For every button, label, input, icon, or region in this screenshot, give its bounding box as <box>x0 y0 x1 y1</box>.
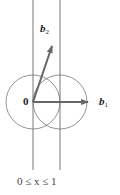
origin-text: 0 <box>23 95 29 107</box>
b2-subscript: 2 <box>46 28 50 36</box>
vector-b2-arrow <box>33 46 52 102</box>
strip-range-label: 0 ≤ x ≤ 1 <box>17 176 57 187</box>
b2-label: b2 <box>40 23 49 36</box>
b1-subscript: 1 <box>105 101 109 109</box>
origin-label: 0 <box>23 96 29 107</box>
b1-label: b1 <box>99 96 108 109</box>
